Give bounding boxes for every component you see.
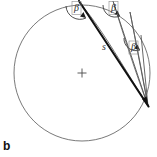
angle-label-beta-2: β (111, 3, 116, 13)
figure-container: β β β s b (0, 0, 157, 157)
figure-caption: b (3, 140, 10, 152)
geometry-diagram-svg (0, 0, 157, 157)
angle-label-beta-1: β (74, 3, 79, 13)
center-cross-marker (78, 69, 87, 78)
angle-label-beta-3: β (131, 42, 136, 52)
chord-label-s: s (102, 42, 106, 52)
